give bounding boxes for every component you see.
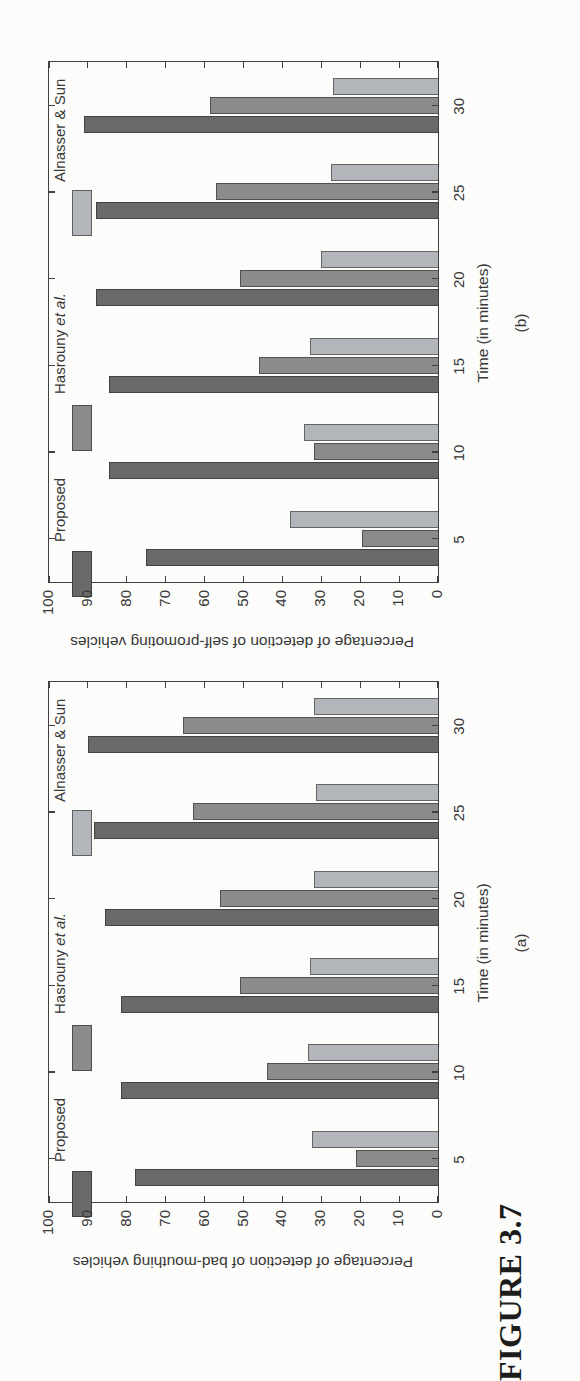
bar-a-hasrouny-15: [240, 977, 438, 994]
x-tick: [432, 1071, 438, 1072]
y-tick-right: [165, 682, 166, 688]
legend-swatch-hasrouny: [72, 1025, 92, 1071]
y-tick-right: [437, 682, 438, 688]
y-tick-right: [399, 62, 400, 68]
bar-a-proposed-10: [121, 1083, 438, 1100]
x-tick: [432, 985, 438, 986]
bar-a-alnasser-5: [312, 1131, 438, 1148]
bar-b-hasrouny-15: [259, 357, 438, 374]
y-axis-title-b: Percentage of detection of self-promotin…: [48, 633, 437, 651]
y-tick-right: [321, 62, 322, 68]
y-tick-right: [48, 62, 49, 68]
bar-b-alnasser-25: [331, 165, 438, 182]
y-axis-title-a: Percentage of detection of bad-mouthing …: [48, 1253, 437, 1271]
y-tick: [126, 576, 127, 582]
bar-a-hasrouny-25: [193, 804, 438, 821]
x-tick-label: 20: [450, 258, 468, 302]
x-tick-label: 5: [450, 1138, 468, 1182]
y-tick-right: [165, 62, 166, 68]
y-tick: [282, 576, 283, 582]
y-tick: [399, 576, 400, 582]
y-tick: [165, 1196, 166, 1202]
x-tick-top: [49, 811, 55, 812]
y-tick: [48, 576, 49, 582]
legend-label-alnasser: Alnasser & Sun: [51, 699, 68, 802]
x-tick-label: 15: [450, 964, 468, 1008]
legend-label-proposed: Proposed: [51, 478, 68, 542]
y-tick: [399, 1196, 400, 1202]
figure-caption: FIGURE 3.7: [492, 1171, 536, 1381]
panel-label-a: (a): [512, 683, 530, 1203]
x-tick: [432, 365, 438, 366]
bar-a-hasrouny-30: [183, 717, 438, 734]
bar-a-hasrouny-10: [267, 1064, 438, 1081]
y-tick-right: [243, 62, 244, 68]
bar-b-proposed-20: [96, 289, 438, 306]
y-tick: [360, 576, 361, 582]
y-tick-right: [204, 62, 205, 68]
x-tick-top: [49, 898, 55, 899]
x-tick: [432, 538, 438, 539]
bar-b-alnasser-20: [321, 251, 438, 268]
bar-a-alnasser-30: [314, 698, 439, 715]
x-tick-label: 10: [450, 431, 468, 475]
y-tick-right: [282, 682, 283, 688]
legend-label-hasrouny: Hasrouny et al.: [51, 293, 68, 394]
x-tick: [432, 898, 438, 899]
chart-panel-b: ProposedHasrouny et al.Alnasser & Sun510…: [40, 45, 540, 665]
bar-b-proposed-15: [109, 376, 438, 393]
x-tick: [432, 191, 438, 192]
y-tick: [437, 1196, 438, 1202]
y-tick-right: [360, 62, 361, 68]
y-tick: [165, 576, 166, 582]
chart-panel-a: ProposedHasrouny et al.Alnasser & Sun510…: [40, 665, 540, 1285]
x-axis-title: Time (in minutes): [474, 63, 492, 583]
bar-a-proposed-20: [105, 909, 438, 926]
x-tick: [432, 451, 438, 452]
y-tick: [126, 1196, 127, 1202]
y-tick: [437, 576, 438, 582]
y-tick: [321, 1196, 322, 1202]
bar-a-proposed-25: [94, 823, 438, 840]
x-axis-title: Time (in minutes): [474, 683, 492, 1203]
bar-b-alnasser-5: [290, 511, 438, 528]
x-tick-label: 10: [450, 1051, 468, 1095]
x-tick: [432, 105, 438, 106]
bar-a-alnasser-15: [310, 958, 438, 975]
bar-a-hasrouny-5: [356, 1150, 438, 1167]
legend-label-proposed: Proposed: [51, 1098, 68, 1162]
bar-b-hasrouny-10: [314, 444, 439, 461]
x-tick: [432, 725, 438, 726]
x-tick-top: [49, 191, 55, 192]
x-tick-label: 25: [450, 791, 468, 835]
legend-swatch-hasrouny: [72, 405, 92, 451]
y-tick: [48, 1196, 49, 1202]
legend-label-alnasser: Alnasser & Sun: [51, 79, 68, 182]
y-tick: [204, 576, 205, 582]
bar-b-proposed-25: [96, 203, 438, 220]
x-tick-label: 5: [450, 518, 468, 562]
bar-b-proposed-30: [84, 116, 438, 133]
x-tick-label: 15: [450, 344, 468, 388]
y-tick: [243, 1196, 244, 1202]
x-tick: [432, 278, 438, 279]
y-tick-right: [126, 682, 127, 688]
bar-a-alnasser-20: [314, 871, 439, 888]
y-tick: [243, 576, 244, 582]
bar-b-alnasser-30: [333, 78, 438, 95]
panel-label-b: (b): [512, 63, 530, 583]
y-tick-right: [399, 682, 400, 688]
book-page: ProposedHasrouny et al.Alnasser & Sun510…: [0, 0, 580, 1381]
y-tick: [204, 1196, 205, 1202]
bar-b-hasrouny-5: [362, 530, 438, 547]
x-tick-label: 20: [450, 878, 468, 922]
y-tick-right: [126, 62, 127, 68]
bar-b-hasrouny-25: [216, 184, 438, 201]
bar-a-proposed-5: [135, 1169, 438, 1186]
bar-b-proposed-10: [109, 463, 438, 480]
y-tick-right: [87, 682, 88, 688]
y-tick-right: [48, 682, 49, 688]
legend-swatch-alnasser: [72, 810, 92, 856]
x-tick-label: 30: [450, 704, 468, 748]
bar-b-alnasser-10: [304, 425, 438, 442]
